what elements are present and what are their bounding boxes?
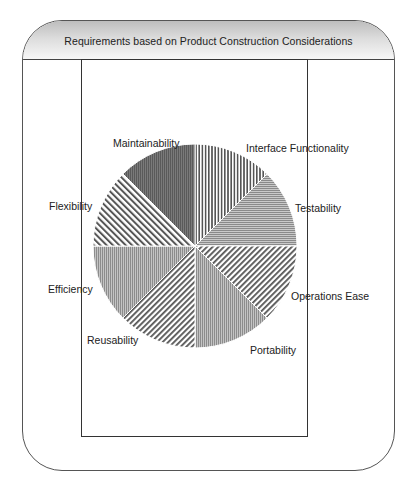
label-interface-functionality: Interface Functionality: [246, 142, 349, 154]
label-portability: Portability: [250, 344, 296, 356]
label-operations-ease: Operations Ease: [291, 290, 369, 302]
label-reusability: Reusability: [87, 334, 138, 346]
pie-slices: [93, 144, 297, 348]
label-flexibility: Flexibility: [49, 200, 92, 212]
label-testability: Testability: [295, 202, 341, 214]
pie-chart: [0, 0, 414, 488]
label-maintainability: Maintainability: [113, 137, 180, 149]
label-efficiency: Efficiency: [48, 283, 93, 295]
